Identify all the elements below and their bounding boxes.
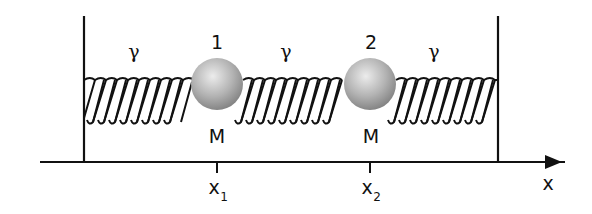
mass-1-mass-label: M (209, 125, 225, 147)
position-label-x1: x 1 (208, 176, 227, 204)
svg-text:x: x (208, 176, 219, 198)
axis-label: x (542, 172, 553, 194)
spring-right (388, 78, 498, 124)
mass-1: 1 M (191, 31, 243, 147)
spring-right-constant: γ (428, 40, 439, 62)
spring-left-constant: γ (128, 40, 139, 62)
ball-1 (191, 58, 243, 110)
ball-2 (344, 58, 396, 110)
position-label-x2: x 2 (361, 176, 380, 204)
mass-1-index: 1 (211, 31, 223, 53)
spring-middle-constant: γ (280, 40, 291, 62)
mass-2-mass-label: M (363, 125, 379, 147)
x-axis: x (40, 155, 565, 194)
axis-arrow-icon (545, 155, 562, 169)
mass-2: 2 M (344, 31, 396, 147)
svg-text:2: 2 (373, 190, 381, 204)
svg-text:1: 1 (220, 190, 228, 204)
spring-left (84, 78, 194, 124)
coupled-oscillator-diagram: x 1 M 2 M γ γ γ x 1 x 2 (0, 0, 592, 214)
svg-text:x: x (361, 176, 372, 198)
mass-2-index: 2 (365, 31, 377, 53)
spring-middle (235, 78, 342, 124)
